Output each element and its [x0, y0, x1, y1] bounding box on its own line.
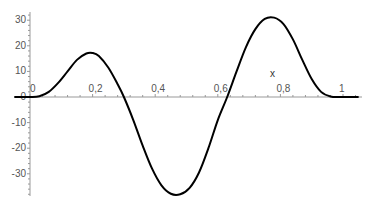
x-tick-label: 0,6 — [214, 83, 228, 94]
x-tick-label: 0 — [30, 83, 36, 94]
x-tick-label: 0,2 — [89, 83, 103, 94]
x-axis-label: x — [270, 68, 275, 79]
y-tick-label: 30 — [15, 14, 27, 25]
y-tick-label: -20 — [12, 142, 27, 153]
y-tick-label: -10 — [12, 117, 27, 128]
x-axis: 00,20,40,60,81 — [14, 83, 362, 97]
line-chart: 3020100-10-20-30 00,20,40,60,81 x — [0, 0, 365, 206]
y-axis: 3020100-10-20-30 — [12, 12, 30, 196]
x-tick-label: 0,8 — [276, 83, 290, 94]
data-series — [14, 17, 358, 195]
x-tick-label: 0,4 — [151, 83, 165, 94]
x-tick-label: 1 — [339, 83, 345, 94]
series-line — [14, 17, 358, 195]
y-tick-label: 20 — [15, 40, 27, 51]
y-tick-label: -30 — [12, 168, 27, 179]
y-tick-label: 10 — [15, 65, 27, 76]
